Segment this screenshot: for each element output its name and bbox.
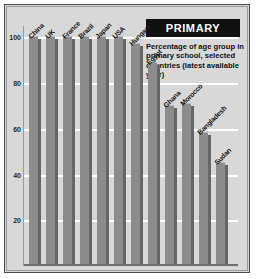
bar-shadow xyxy=(174,108,177,266)
bar-shadow xyxy=(55,39,58,266)
bar-ghana xyxy=(165,106,177,266)
y-axis-tick-40: 40 xyxy=(13,171,21,178)
bar-face xyxy=(46,36,55,266)
bar-morocco xyxy=(182,104,194,266)
bar-face xyxy=(63,36,72,266)
bar-shadow xyxy=(191,106,194,266)
bar-bangladesh xyxy=(199,133,211,266)
bar-face xyxy=(97,36,106,266)
bar-egypt xyxy=(148,63,160,266)
bar-series xyxy=(24,26,238,266)
bar-face xyxy=(114,36,123,266)
bar-uk xyxy=(46,37,58,266)
bar-brazil xyxy=(80,37,92,266)
bar-hungary xyxy=(131,44,143,266)
plot-area: 10080604020 ChinaUKFranceBrazilJapanUSAH… xyxy=(24,26,238,266)
y-axis-tick-20: 20 xyxy=(13,217,21,224)
bar-face xyxy=(199,132,208,266)
bar-face xyxy=(165,105,174,266)
bar-shadow xyxy=(208,135,211,266)
bar-face xyxy=(29,36,38,266)
bar-shadow xyxy=(106,39,109,266)
bar-face xyxy=(80,36,89,266)
bar-japan xyxy=(97,37,109,266)
bar-shadow xyxy=(38,39,41,266)
chart-figure: PRIMARY Percentage of age group in prima… xyxy=(0,0,256,279)
bar-china xyxy=(29,37,41,266)
bar-face xyxy=(216,162,225,266)
bar-face xyxy=(182,103,191,266)
y-axis-tick-60: 60 xyxy=(13,125,21,132)
bar-shadow xyxy=(225,165,228,266)
bar-shadow xyxy=(140,46,143,266)
bar-usa xyxy=(114,37,126,266)
x-axis-baseline xyxy=(24,264,238,266)
bar-face xyxy=(148,62,157,266)
bar-shadow xyxy=(123,39,126,266)
bar-shadow xyxy=(89,39,92,266)
bar-shadow xyxy=(157,65,160,266)
bar-shadow xyxy=(72,39,75,266)
bar-sudan xyxy=(216,163,228,266)
bar-face xyxy=(131,43,140,266)
y-axis-tick-80: 80 xyxy=(13,80,21,87)
bar-france xyxy=(63,37,75,266)
y-axis-tick-100: 100 xyxy=(9,34,21,41)
